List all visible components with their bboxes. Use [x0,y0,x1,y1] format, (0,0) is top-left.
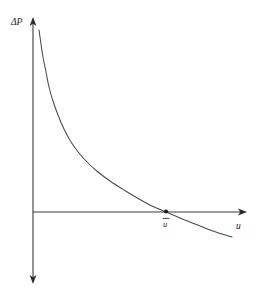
intersection-point-label: u [163,219,167,229]
x-axis-label: u [236,221,241,231]
figure-container: ΔP u u [0,0,260,295]
intersection-point-marker [164,209,168,213]
curve-delta-p [39,30,232,237]
y-axis-label: ΔP [10,17,23,27]
plot-canvas: ΔP u u [0,0,260,295]
